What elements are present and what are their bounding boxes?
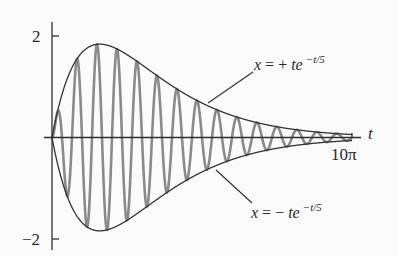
- upper-label-lhs: x: [253, 56, 261, 73]
- lower-label-leader: [216, 170, 252, 203]
- upper-label-exponent: −t/5: [306, 53, 326, 65]
- y-tick-label-minus-2: −2: [22, 230, 40, 249]
- lower-label-te: te: [288, 204, 300, 221]
- lower-label-lhs: x: [250, 204, 258, 221]
- damped-oscillation-chart: 2 −2 t 10π x = + te−t/5 x = − te−t/5: [0, 0, 397, 256]
- t-axis-label: t: [368, 124, 374, 143]
- upper-envelope-label: x = + te−t/5: [253, 53, 325, 73]
- lower-envelope-label: x = − te−t/5: [250, 201, 322, 221]
- upper-label-te: te: [291, 56, 303, 73]
- lower-envelope-curve: [52, 138, 352, 231]
- upper-label-leader: [208, 72, 253, 103]
- lower-label-exponent: −t/5: [303, 201, 323, 213]
- upper-label-eq: = +: [261, 56, 291, 73]
- t-tick-label-10pi: 10π: [331, 145, 357, 164]
- lower-label-eq: = −: [258, 204, 288, 221]
- y-tick-label-2: 2: [32, 27, 41, 46]
